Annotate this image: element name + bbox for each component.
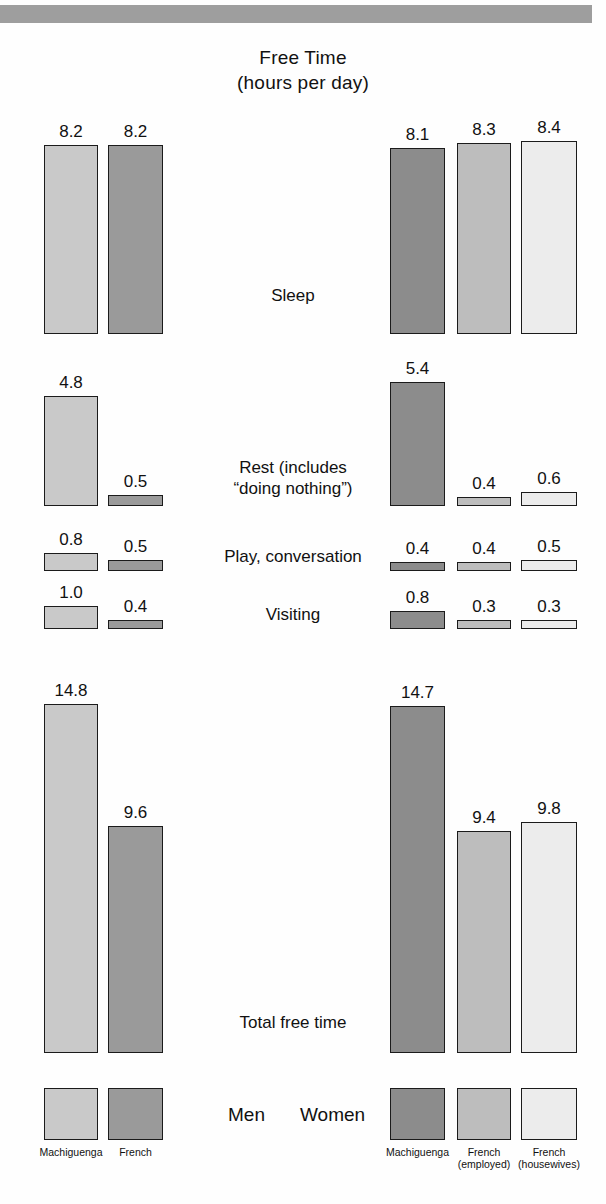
bar-value-play-women-2: 0.4 xyxy=(457,540,511,557)
bar-visiting-men-2 xyxy=(108,620,163,629)
bar-value-visiting-men-2: 0.4 xyxy=(108,598,163,615)
bar-value-rest-women-3: 0.6 xyxy=(521,470,577,487)
bar-rest-men-1 xyxy=(44,396,98,506)
bar-total-women-2 xyxy=(457,831,511,1053)
chart-page: Free Time (hours per day) 8.28.28.18.38.… xyxy=(0,0,606,1204)
row-label-rest: Rest (includes“doing nothing”) xyxy=(186,457,400,499)
bar-sleep-women-2 xyxy=(457,143,511,334)
header-band xyxy=(0,5,592,23)
bar-value-sleep-men-2: 8.2 xyxy=(108,123,163,140)
chart-title: Free Time (hours per day) xyxy=(0,45,606,95)
legend-label-french-housewives: French(housewives) xyxy=(507,1146,591,1170)
bar-rest-women-3 xyxy=(521,492,577,506)
chart-title-line1: Free Time xyxy=(259,47,346,68)
row-label-line1: Visiting xyxy=(266,605,321,624)
row-label-line1: Total free time xyxy=(240,1013,347,1032)
legend-swatch-french-housewives xyxy=(521,1088,577,1140)
bar-value-rest-men-1: 4.8 xyxy=(44,374,98,391)
row-label-play: Play, conversation xyxy=(186,546,400,567)
group-label-women: Women xyxy=(300,1105,365,1124)
legend-label-line1: French xyxy=(533,1146,566,1158)
bar-visiting-women-2 xyxy=(457,620,511,629)
bar-sleep-men-1 xyxy=(44,145,98,334)
legend-label-line1: Machiguenga xyxy=(386,1146,449,1158)
bar-visiting-men-1 xyxy=(44,606,98,629)
bar-sleep-women-1 xyxy=(390,148,445,334)
bar-value-play-men-1: 0.8 xyxy=(44,531,98,548)
bar-value-rest-women-2: 0.4 xyxy=(457,475,511,492)
bar-visiting-women-3 xyxy=(521,620,577,629)
bar-total-men-1 xyxy=(44,704,98,1053)
legend-label-line2: (housewives) xyxy=(507,1158,591,1170)
bar-play-men-1 xyxy=(44,553,98,571)
row-label-sleep: Sleep xyxy=(186,285,400,306)
bar-value-total-women-2: 9.4 xyxy=(457,809,511,826)
row-label-line2: “doing nothing”) xyxy=(186,478,400,499)
legend-swatch-machiguenga-men xyxy=(44,1088,98,1140)
row-label-line1: Rest (includes xyxy=(239,458,347,477)
bar-value-total-women-1: 14.7 xyxy=(390,684,445,701)
legend-swatch-french-men xyxy=(108,1088,163,1140)
chart-title-line2: (hours per day) xyxy=(0,70,606,95)
bar-total-men-2 xyxy=(108,826,163,1053)
bar-rest-women-2 xyxy=(457,497,511,506)
bar-value-total-men-2: 9.6 xyxy=(108,804,163,821)
bar-total-women-3 xyxy=(521,822,577,1053)
legend-label-line1: French xyxy=(119,1146,152,1158)
row-label-visiting: Visiting xyxy=(186,604,400,625)
row-label-total: Total free time xyxy=(186,1012,400,1033)
legend-swatch-french-employed-women xyxy=(457,1088,511,1140)
row-label-line1: Sleep xyxy=(271,286,314,305)
bar-value-sleep-women-1: 8.1 xyxy=(390,126,445,143)
bar-sleep-women-3 xyxy=(521,141,577,334)
bar-value-sleep-women-2: 8.3 xyxy=(457,121,511,138)
bar-value-total-women-3: 9.8 xyxy=(521,800,577,817)
bar-value-total-men-1: 14.8 xyxy=(44,682,98,699)
legend-label-french-men: French xyxy=(94,1146,177,1158)
bar-value-visiting-women-2: 0.3 xyxy=(457,598,511,615)
row-label-line1: Play, conversation xyxy=(224,547,362,566)
bar-rest-men-2 xyxy=(108,495,163,507)
bar-value-sleep-men-1: 8.2 xyxy=(44,123,98,140)
legend-swatch-machiguenga-women xyxy=(390,1088,445,1140)
bar-value-play-men-2: 0.5 xyxy=(108,538,163,555)
bar-play-women-2 xyxy=(457,562,511,571)
bar-play-men-2 xyxy=(108,560,163,572)
bar-sleep-men-2 xyxy=(108,145,163,334)
bar-value-rest-women-1: 5.4 xyxy=(390,360,445,377)
legend-label-line1: French xyxy=(468,1146,501,1158)
bar-total-women-1 xyxy=(390,706,445,1053)
bar-value-rest-men-2: 0.5 xyxy=(108,473,163,490)
bar-value-visiting-men-1: 1.0 xyxy=(44,584,98,601)
group-label-men: Men xyxy=(228,1105,265,1124)
bar-value-visiting-women-3: 0.3 xyxy=(521,598,577,615)
bar-value-sleep-women-3: 8.4 xyxy=(521,119,577,136)
bar-value-play-women-3: 0.5 xyxy=(521,538,577,555)
bar-play-women-3 xyxy=(521,560,577,572)
